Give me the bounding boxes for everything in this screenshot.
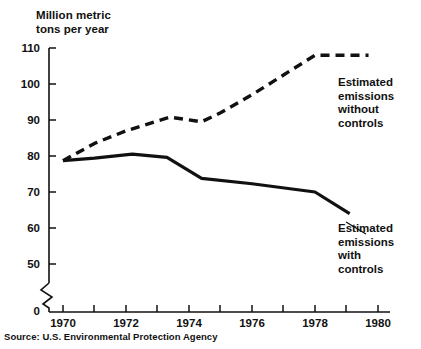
x-axis-ticks xyxy=(63,305,378,312)
annotation-with-controls: Estimated emissions with controls xyxy=(338,222,394,276)
plot-area xyxy=(0,0,421,349)
series-line-with-controls xyxy=(63,154,350,213)
emissions-line-chart: Million metric tons per year 110 100 90 … xyxy=(0,0,421,349)
series-line-without-controls xyxy=(63,55,369,160)
y-axis-ticks xyxy=(49,48,56,264)
annotation-without-controls: Estimated emissions without controls xyxy=(338,76,394,130)
source-note: Source: U.S. Environmental Protection Ag… xyxy=(4,331,218,342)
y-axis-break-zigzag xyxy=(41,283,52,312)
